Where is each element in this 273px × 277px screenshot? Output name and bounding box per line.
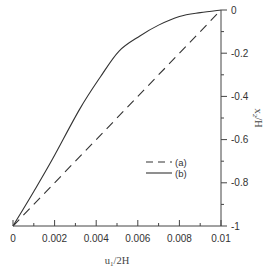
y-tick-label: -0.2 xyxy=(231,48,249,59)
series-b-line xyxy=(13,10,221,226)
y-axis-title: x2/H xyxy=(251,108,264,128)
legend-label-a: (a) xyxy=(175,157,187,168)
x-tick-label: 0.01 xyxy=(211,233,231,244)
x-tick-label: 0.006 xyxy=(125,233,150,244)
x-axis-title: u1/2H xyxy=(105,255,130,268)
x-axis: 00.0020.0040.0060.0080.01 xyxy=(10,220,231,244)
y-tick-label: -0.6 xyxy=(231,134,249,145)
legend: (a) (b) xyxy=(146,157,187,179)
x-tick-label: 0.008 xyxy=(167,233,192,244)
plot-area xyxy=(13,10,221,226)
series-a-line xyxy=(13,10,221,226)
legend-label-b: (b) xyxy=(175,168,187,179)
y-tick-label: -0.8 xyxy=(231,177,249,188)
y-axis: 0-0.2-0.4-0.6-0.8-1 xyxy=(221,5,249,232)
x-tick-label: 0.004 xyxy=(84,233,109,244)
x-tick-label: 0 xyxy=(10,233,16,244)
y-tick-label: -0.4 xyxy=(231,91,249,102)
y-tick-label: 0 xyxy=(231,5,237,16)
y-tick-label: -1 xyxy=(231,221,240,232)
chart: 00.0020.0040.0060.0080.01 0-0.2-0.4-0.6-… xyxy=(0,0,273,277)
x-tick-label: 0.002 xyxy=(42,233,67,244)
